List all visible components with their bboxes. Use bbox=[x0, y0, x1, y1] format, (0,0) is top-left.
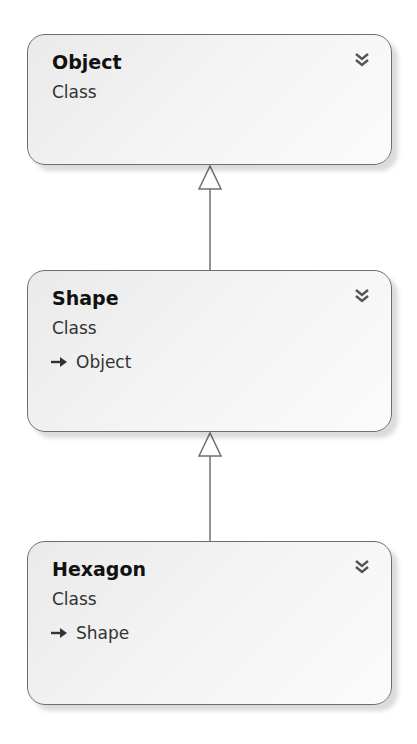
base-type-row: Shape bbox=[50, 623, 129, 643]
class-node-object[interactable]: Object Class bbox=[27, 34, 392, 165]
class-kind: Class bbox=[52, 589, 97, 609]
class-name: Shape bbox=[52, 287, 119, 309]
inheritance-arrow-icon bbox=[50, 355, 70, 369]
edge-shape-to-object bbox=[199, 166, 221, 270]
base-type-name: Shape bbox=[76, 623, 129, 643]
class-name: Object bbox=[52, 51, 122, 73]
base-type-row: Object bbox=[50, 352, 131, 372]
base-type-name: Object bbox=[76, 352, 131, 372]
class-name: Hexagon bbox=[52, 558, 146, 580]
class-kind: Class bbox=[52, 82, 97, 102]
edge-hexagon-to-shape bbox=[199, 433, 221, 541]
double-chevron-down-icon[interactable] bbox=[353, 287, 371, 305]
class-kind: Class bbox=[52, 318, 97, 338]
class-node-hexagon[interactable]: Hexagon Class Shape bbox=[27, 541, 392, 705]
double-chevron-down-icon[interactable] bbox=[353, 51, 371, 69]
inheritance-arrow-icon bbox=[50, 626, 70, 640]
double-chevron-down-icon[interactable] bbox=[353, 558, 371, 576]
class-node-shape[interactable]: Shape Class Object bbox=[27, 270, 392, 432]
